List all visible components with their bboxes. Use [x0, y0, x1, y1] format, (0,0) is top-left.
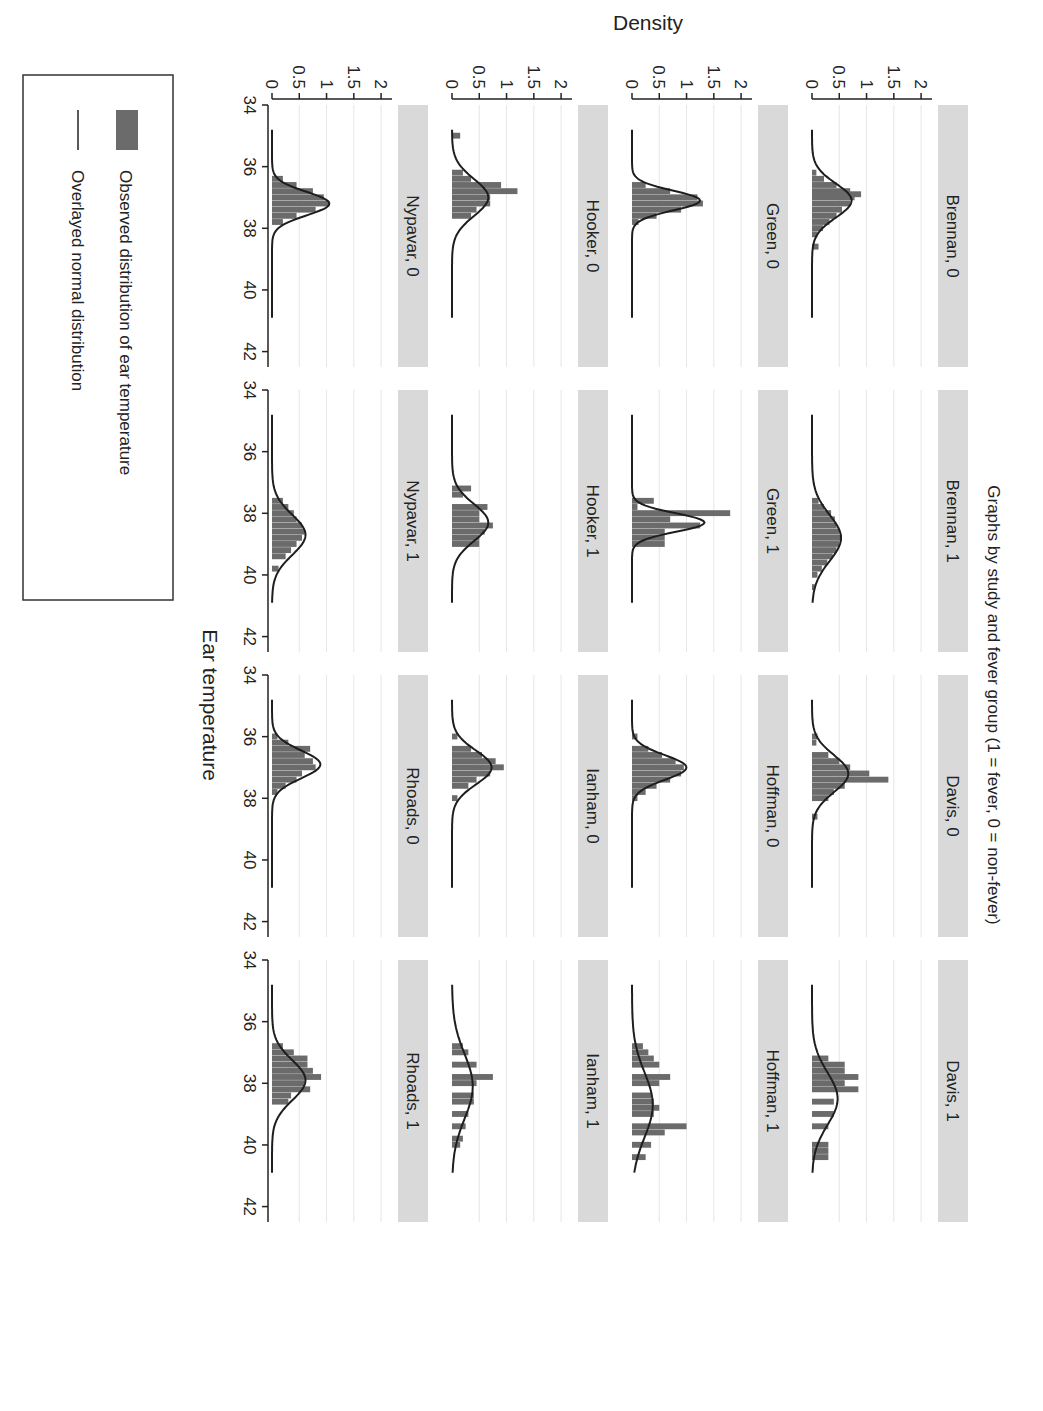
histogram-bar	[812, 771, 869, 777]
panel: Davis, 0	[812, 675, 968, 937]
histogram-bar	[272, 207, 316, 213]
histogram-bar	[452, 213, 471, 219]
histogram-bar	[272, 201, 329, 207]
y-tick-label: 0	[802, 80, 821, 89]
x-tick-label: 42	[240, 1197, 259, 1216]
histogram-bar	[632, 758, 676, 764]
histogram-bar	[452, 504, 487, 510]
histogram-bar	[272, 535, 302, 541]
histogram-bar	[272, 219, 283, 225]
histogram-bar	[272, 516, 297, 522]
y-tick-label: 1	[677, 80, 696, 89]
histogram-bar	[452, 170, 463, 176]
x-tick-label: 34	[240, 96, 259, 115]
histogram-bar	[632, 1099, 654, 1105]
histogram-bar	[812, 1080, 845, 1086]
histogram-bar	[632, 764, 684, 770]
y-tick-label: 1	[857, 80, 876, 89]
panel: Ianham, 0	[452, 675, 608, 937]
histogram-bar	[272, 1080, 305, 1086]
panel: Brennan, 0	[812, 105, 968, 367]
panel: Ianham, 1	[452, 960, 608, 1222]
histogram-bar	[452, 1062, 477, 1068]
histogram-bar	[812, 170, 816, 176]
histogram-bar	[452, 510, 479, 516]
panel-label: Rhoads, 1	[403, 1052, 422, 1130]
panel: Rhoads, 0	[272, 675, 428, 937]
panel: Nypavar, 1	[272, 390, 428, 652]
histogram-bar	[272, 553, 286, 559]
y-axis-title: Density	[613, 11, 684, 34]
histogram-bar	[812, 541, 839, 547]
histogram-bar	[452, 133, 460, 139]
panel-label: Ianham, 0	[583, 768, 602, 844]
y-tick-label: 0	[442, 80, 461, 89]
chart-title: Graphs by study and fever group (1 = fev…	[984, 485, 1003, 924]
y-tick-label: 0	[622, 80, 641, 89]
histogram-bar	[272, 1062, 307, 1068]
histogram-bar	[812, 758, 839, 764]
histogram-bar	[452, 795, 457, 801]
panel: Hoffman, 0	[632, 675, 788, 937]
histogram-bar	[272, 1093, 291, 1099]
histogram-bar	[452, 752, 482, 758]
panel-label: Rhoads, 0	[403, 767, 422, 845]
x-axes: 3436384042343638404234363840423436384042	[240, 96, 268, 1222]
histogram-bar	[452, 777, 477, 783]
x-tick-label: 34	[240, 951, 259, 970]
histogram-bar	[812, 740, 816, 746]
panel-label: Davis, 1	[943, 1060, 962, 1121]
histogram-bar	[452, 1049, 468, 1055]
panel-label: Hooker, 1	[583, 485, 602, 558]
y-tick-label: 2	[911, 80, 930, 89]
histogram-bar	[812, 777, 888, 783]
histogram-bar	[452, 746, 471, 752]
histogram-bar	[812, 1111, 834, 1117]
panel: Hooker, 0	[452, 105, 608, 367]
histogram-bar	[272, 1074, 321, 1080]
histogram-bar	[632, 1062, 659, 1068]
rotated-figure-page: Graphs by study and fever group (1 = fev…	[0, 0, 1043, 1411]
histogram-bar	[812, 523, 837, 529]
normal-curve	[452, 700, 492, 888]
y-tick-label: 2	[551, 80, 570, 89]
x-tick-label: 38	[240, 1074, 259, 1093]
histogram-bar	[812, 213, 837, 219]
panel: Davis, 1	[812, 960, 968, 1222]
histogram-bar	[812, 201, 850, 207]
histogram-bar	[272, 566, 279, 572]
histogram-bar	[812, 1142, 828, 1148]
normal-curve	[272, 700, 320, 888]
histogram-bar	[632, 1130, 665, 1136]
panel: Hoffman, 1	[632, 960, 788, 1222]
histogram-bar	[452, 771, 490, 777]
histogram-bar	[272, 1099, 288, 1105]
x-tick-label: 40	[240, 280, 259, 299]
histogram-bar	[272, 1068, 313, 1074]
histogram-bar	[272, 541, 297, 547]
x-tick-label: 42	[240, 912, 259, 931]
x-tick-label: 36	[240, 1012, 259, 1031]
panel-label: Green, 0	[763, 203, 782, 269]
histogram-bar	[812, 535, 842, 541]
small-multiples-histogram-chart: Graphs by study and fever group (1 = fev…	[0, 0, 1043, 1411]
histogram-bar	[452, 529, 485, 535]
histogram-bar	[812, 1074, 858, 1080]
normal-curve	[632, 130, 700, 318]
legend-label-observed: Observed distribution of ear temperature	[116, 170, 135, 475]
histogram-bar	[272, 771, 302, 777]
histogram-bar	[632, 523, 700, 529]
y-tick-label: 0.5	[289, 65, 308, 89]
panel-label: Brennan, 0	[943, 194, 962, 277]
legend-bar-swatch-icon	[116, 110, 138, 150]
histogram-bar	[452, 783, 468, 789]
y-tick-label: 1.5	[344, 65, 363, 89]
legend: Observed distribution of ear temperature…	[23, 75, 173, 600]
histogram-bar	[632, 516, 670, 522]
panel-label: Hooker, 0	[583, 200, 602, 273]
panel: Nypavar, 0	[272, 105, 428, 367]
panel-label: Green, 1	[763, 488, 782, 554]
histogram-bar	[812, 566, 822, 572]
panel-label: Hoffman, 0	[763, 765, 782, 848]
histogram-bar	[812, 194, 855, 200]
